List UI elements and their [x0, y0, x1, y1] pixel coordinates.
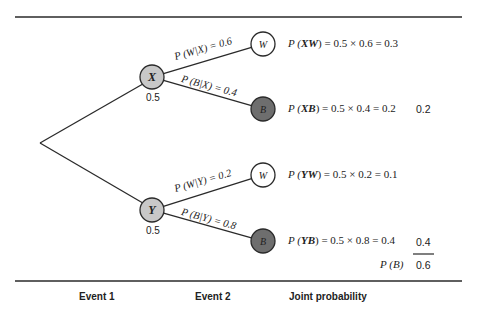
joint-yb: P (YB) = 0.5 × 0.8 = 0.4 — [288, 234, 395, 246]
side-value-yb: 0.4 — [416, 236, 431, 248]
edge-root-x — [40, 84, 142, 143]
joint-event: XB — [301, 102, 316, 114]
svg-text:X: X — [147, 70, 157, 84]
joint-suffix: ) = 0.5 × 0.6 = 0.3 — [318, 37, 398, 49]
probability-tree-diagram: XWBYWB 0.5 0.5 P (W|X) = 0.6 P (B|X) = 0… — [0, 0, 477, 313]
joint-prefix: P ( — [288, 234, 301, 246]
joint-event: YW — [301, 168, 318, 180]
edge-root-y — [40, 143, 142, 203]
joint-event: XW — [301, 37, 318, 49]
joint-prefix: P ( — [288, 168, 301, 180]
joint-suffix: ) = 0.5 × 0.2 = 0.1 — [317, 168, 397, 180]
node-x: X — [140, 65, 164, 89]
joint-xb: P (XB) = 0.5 × 0.4 = 0.2 — [288, 102, 396, 114]
joint-event: YB — [301, 234, 315, 246]
tree-canvas: XWBYWB — [0, 0, 477, 313]
node-y: Y — [140, 198, 164, 222]
joint-xw: P (XW) = 0.5 × 0.6 = 0.3 — [288, 37, 398, 49]
side-value-xb: 0.2 — [416, 103, 431, 115]
svg-text:B: B — [260, 104, 266, 115]
footer-event-2: Event 2 — [195, 291, 231, 302]
footer-event-1: Event 1 — [79, 291, 115, 302]
joint-yw: P (YW) = 0.5 × 0.2 = 0.1 — [288, 168, 397, 180]
prob-y: 0.5 — [146, 225, 160, 236]
joint-suffix: ) = 0.5 × 0.8 = 0.4 — [315, 234, 395, 246]
svg-text:B: B — [260, 236, 266, 247]
joint-prefix: P ( — [288, 37, 301, 49]
node-y-b: B — [251, 229, 275, 253]
joint-suffix: ) = 0.5 × 0.4 = 0.2 — [316, 102, 396, 114]
node-x-b: B — [251, 97, 275, 121]
node-y-w: W — [251, 163, 275, 187]
prob-x: 0.5 — [146, 92, 160, 103]
total-value: 0.6 — [416, 259, 431, 271]
footer-joint-probability: Joint probability — [289, 291, 367, 302]
joint-prefix: P ( — [288, 102, 301, 114]
total-label: P (B) — [380, 258, 403, 270]
node-x-w: W — [251, 32, 275, 56]
